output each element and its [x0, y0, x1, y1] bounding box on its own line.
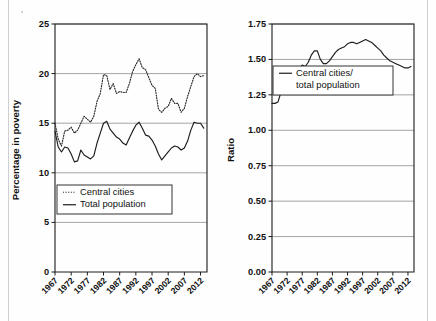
left-chart-series: [55, 59, 204, 162]
left-chart-y-tick-labels: 0510152025: [39, 19, 49, 277]
xtick-label-1987: 1987: [104, 275, 125, 296]
series-line-total-population: [55, 121, 204, 162]
xtick-label-1972: 1972: [55, 275, 76, 296]
left-chart-x-tick-labels: 1967197219771982198719921997200220072012: [39, 275, 205, 296]
chart-panel-percentage-in-poverty: 0510152025 19671972197719821987199219972…: [0, 0, 218, 321]
poverty-percentage-chart: 0510152025 19671972197719821987199219972…: [0, 0, 218, 321]
ytick-label-0.75: 0.75: [248, 161, 266, 171]
left-legend-label-0: Central cities: [80, 186, 134, 197]
ytick-label-0: 0: [44, 267, 49, 277]
right-chart-y-axis-title: Ratio: [225, 138, 236, 162]
chart-panel-ratio: 0.000.250.500.751.001.251.501.75 1967197…: [218, 0, 436, 321]
scan-speck: [21, 11, 23, 13]
xtick-label-1992: 1992: [120, 275, 141, 296]
poverty-ratio-chart: 0.000.250.500.751.001.251.501.75 1967197…: [218, 0, 436, 321]
left-chart-legend: Central citiesTotal population: [57, 185, 172, 214]
left-chart-ticks: [52, 24, 201, 276]
xtick-label-1982: 1982: [88, 275, 109, 296]
series-line-central-cities: [55, 59, 204, 146]
ytick-label-25: 25: [39, 19, 49, 29]
right-chart-y-tick-labels: 0.000.250.500.751.001.251.501.75: [248, 19, 266, 277]
xtick-label-2012: 2012: [185, 275, 206, 296]
xtick-label-1967: 1967: [39, 275, 60, 296]
ytick-label-1.50: 1.50: [248, 54, 266, 64]
ytick-label-0.25: 0.25: [248, 232, 266, 242]
ytick-label-1.25: 1.25: [248, 90, 266, 100]
scanned-page: 0510152025 19671972197719821987199219972…: [0, 0, 436, 321]
ytick-label-20: 20: [39, 69, 49, 79]
xtick-label-2012: 2012: [392, 275, 413, 296]
right-chart-axes: [272, 24, 414, 272]
right-legend-label-0: Central cities/: [296, 67, 353, 78]
right-chart-legend: Central cities/total population: [273, 66, 393, 95]
left-legend-label-1: Total population: [80, 198, 146, 209]
ytick-label-1.75: 1.75: [248, 19, 266, 29]
xtick-label-1997: 1997: [136, 275, 157, 296]
right-chart-x-tick-labels: 1967197219771982198719921997200220072012: [256, 275, 413, 296]
left-chart-y-axis-title: Percentage in poverty: [10, 99, 21, 200]
ytick-label-1.00: 1.00: [248, 125, 266, 135]
right-plot-frame: [272, 24, 414, 272]
xtick-label-2007: 2007: [169, 275, 190, 296]
ytick-label-0.00: 0.00: [248, 267, 266, 277]
ytick-label-10: 10: [39, 168, 49, 178]
xtick-label-2002: 2002: [153, 275, 174, 296]
right-chart-ticks: [269, 24, 408, 276]
right-legend-label-0-line2: total population: [296, 79, 360, 90]
ytick-label-0.50: 0.50: [248, 196, 266, 206]
ytick-label-5: 5: [44, 217, 49, 227]
ytick-label-15: 15: [39, 118, 49, 128]
right-chart-gridlines: [272, 24, 414, 237]
xtick-label-1977: 1977: [72, 275, 93, 296]
